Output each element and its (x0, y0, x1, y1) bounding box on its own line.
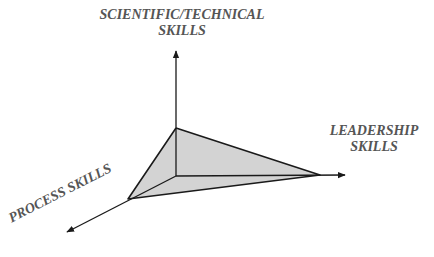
label-line: LEADERSHIP (318, 123, 430, 139)
label-line: SCIENTIFIC/TECHNICAL (92, 7, 272, 23)
skills-diagram: SCIENTIFIC/TECHNICAL SKILLS LEADERSHIP S… (0, 0, 434, 257)
label-line: SKILLS (92, 23, 272, 39)
triangle-face (128, 128, 320, 199)
label-line: SKILLS (318, 139, 430, 155)
scientific-technical-skills-label: SCIENTIFIC/TECHNICAL SKILLS (92, 7, 272, 39)
leadership-skills-label: LEADERSHIP SKILLS (318, 123, 430, 155)
